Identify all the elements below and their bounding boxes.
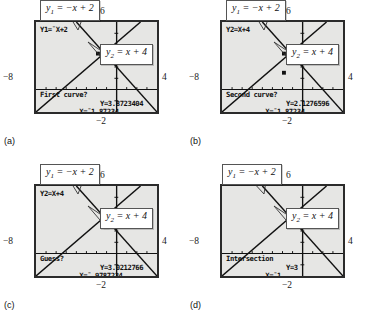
coordinate-readout-c: X=¯.9787234 Y=3.0212766 [40, 264, 122, 276]
x-tick-marks [46, 87, 147, 89]
callout-y2-rest: = x + 4 [300, 46, 333, 57]
callout-y2-rest: = x + 4 [114, 46, 147, 57]
panel-a: Y1=¯X+2 First curve? X=¯1.87234 Y=3.8723… [0, 0, 186, 165]
screen-inner-c: Y2=X+4 Guess? X=¯.9787234 Y=3.0212766 [36, 186, 157, 276]
x-tick-marks [232, 87, 333, 89]
axis-label-bottom: −2 [96, 116, 106, 126]
callout-y1-c: y1 = −x + 2 [40, 164, 100, 185]
axis-label-bottom: −2 [96, 280, 106, 290]
equation-readout-a: Y1=¯X+2 [40, 26, 68, 34]
cursor-marker [282, 71, 286, 75]
axis-label-right: 4 [162, 236, 167, 246]
calculator-screen-b: Y2=X+4 Second curve? X=¯1.87234 Y=2.1276… [220, 20, 345, 114]
x-readout-a: X=¯1.87234 [79, 108, 118, 112]
equation-readout-c: Y2=X+4 [40, 190, 64, 198]
calculator-screen-d: Intersection X=¯1 Y=3 [220, 184, 345, 278]
y-readout-d: Y=3 [286, 264, 298, 272]
coordinate-readout-a: X=¯1.87234 Y=3.8723404 [40, 100, 119, 112]
callout-y2-rest: = x + 4 [114, 210, 147, 221]
coordinate-readout-d: X=¯1 Y=3 [226, 264, 281, 276]
axis-label-top: 6 [100, 6, 105, 16]
callout-y2-rest: = x + 4 [300, 210, 333, 221]
axis-label-right: 4 [348, 72, 353, 82]
screen-inner-b: Y2=X+4 Second curve? X=¯1.87234 Y=2.1276… [222, 22, 343, 112]
equation-readout-b: Y2=X+4 [226, 26, 250, 34]
callout-y2-c: y2 = x + 4 [100, 208, 153, 229]
calculator-screen-c: Y2=X+4 Guess? X=¯.9787234 Y=3.0212766 [34, 184, 159, 278]
y-readout-b: Y=2.1276596 [286, 100, 329, 108]
x-tick-marks [232, 251, 333, 253]
y-readout-a: Y=3.8723404 [100, 100, 143, 108]
coordinate-readout-b: X=¯1.87234 Y=2.1276596 [226, 100, 305, 112]
panel-label-c: (c) [4, 300, 15, 310]
panel-d: Intersection X=¯1 Y=3 6 −8 4 −2 y1 = −x … [186, 164, 372, 329]
axis-label-top: 6 [286, 6, 291, 16]
axis-label-top: 6 [100, 170, 105, 180]
prompt-readout-c: Guess? [40, 255, 64, 263]
callout-y1-a: y1 = −x + 2 [40, 0, 100, 21]
callout-y1-rest: = −x + 2 [54, 2, 94, 13]
axis-label-left: −8 [3, 72, 13, 82]
panel-c: Y2=X+4 Guess? X=¯.9787234 Y=3.0212766 6 … [0, 164, 186, 329]
callout-y1-rest: = −x + 2 [54, 166, 94, 177]
calculator-screen-a: Y1=¯X+2 First curve? X=¯1.87234 Y=3.8723… [34, 20, 159, 114]
callout-y1-b: y1 = −x + 2 [226, 0, 286, 21]
callout-y1-rest: = −x + 2 [236, 166, 276, 177]
callout-y2-d: y2 = x + 4 [286, 208, 339, 229]
y-readout-c: Y=3.0212766 [100, 264, 143, 272]
x-readout-c: X=¯.9787234 [79, 272, 122, 276]
panel-b: Y2=X+4 Second curve? X=¯1.87234 Y=2.1276… [186, 0, 372, 165]
callout-y2-a: y2 = x + 4 [100, 44, 153, 65]
x-readout-b: X=¯1.87234 [265, 108, 304, 112]
screen-inner-a: Y1=¯X+2 First curve? X=¯1.87234 Y=3.8723… [36, 22, 157, 112]
axis-label-left: −8 [3, 236, 13, 246]
axis-label-bottom: −2 [282, 116, 292, 126]
prompt-readout-b: Second curve? [226, 91, 277, 99]
axis-label-right: 4 [348, 236, 353, 246]
x-tick-marks [46, 251, 147, 253]
axis-label-top: 6 [286, 170, 291, 180]
prompt-readout-a: First curve? [40, 91, 87, 99]
axis-label-right: 4 [162, 72, 167, 82]
callout-y1-d: y1 = −x + 2 [222, 164, 282, 185]
panel-label-d: (d) [190, 300, 201, 310]
prompt-readout-d: Intersection [226, 255, 273, 263]
screen-inner-d: Intersection X=¯1 Y=3 [222, 186, 343, 276]
axis-label-left: −8 [189, 72, 199, 82]
axis-label-left: −8 [189, 236, 199, 246]
panel-label-b: (b) [190, 136, 201, 146]
callout-y2-b: y2 = x + 4 [286, 44, 339, 65]
panel-label-a: (a) [4, 136, 15, 146]
figure-grid: Y1=¯X+2 First curve? X=¯1.87234 Y=3.8723… [0, 0, 372, 329]
callout-y1-rest: = −x + 2 [240, 2, 280, 13]
axis-label-bottom: −2 [282, 280, 292, 290]
x-readout-d: X=¯1 [265, 272, 281, 276]
